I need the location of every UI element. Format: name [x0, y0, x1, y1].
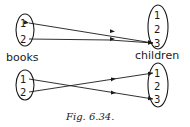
- arrowhead-icon: [111, 78, 116, 82]
- figure-canvas: 1 2 books 1 2 3 children 1 2 1 2 3 Fig. …: [0, 0, 190, 127]
- children-label: children: [135, 49, 179, 62]
- child-element: 2: [154, 81, 160, 92]
- books-label: books: [6, 51, 39, 64]
- child-element: 2: [154, 24, 160, 35]
- figure-caption: Fig. 6.34.: [65, 111, 114, 122]
- book-element: 1: [20, 18, 26, 29]
- arrowhead-icon: [110, 29, 115, 33]
- child-element: 1: [154, 68, 160, 79]
- mapping-diagram-2: children 1 2 1 2 3: [16, 49, 179, 107]
- child-element: 3: [154, 94, 160, 105]
- book-element: 2: [20, 34, 26, 45]
- book-element: 1: [20, 74, 26, 85]
- child-element: 3: [154, 38, 160, 49]
- book-element: 2: [20, 87, 26, 98]
- child-element: 1: [154, 10, 160, 21]
